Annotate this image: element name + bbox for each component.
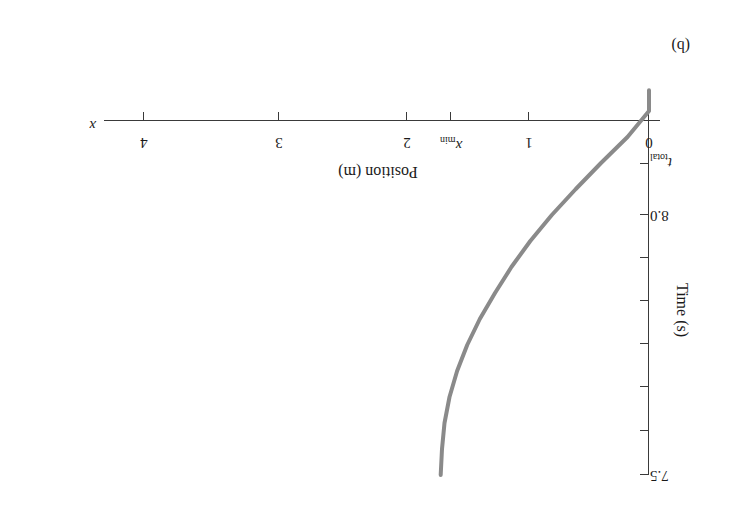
- curve-layer: [0, 0, 756, 514]
- position-time-curve: [441, 90, 649, 475]
- figure-rotated-180: (b) x 0 1 xmin 2 3 4 7.5 8.0 ttotal Posi…: [0, 0, 756, 514]
